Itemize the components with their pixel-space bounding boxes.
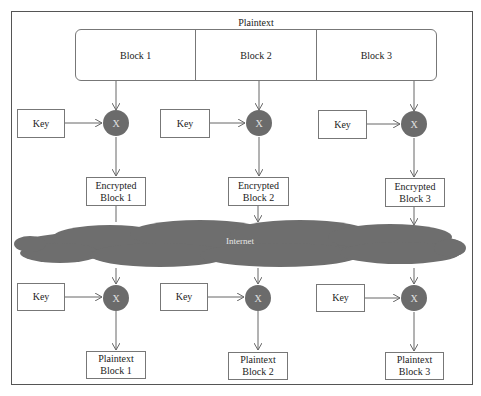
encrypted-block-1-line2: Block 1 (100, 192, 131, 204)
xor-node-decrypt-3: X (401, 285, 427, 311)
encrypted-block-2-line2: Block 2 (243, 192, 274, 204)
encrypted-block-1: Encrypted Block 1 (86, 177, 146, 206)
plaintext-output-3-line1: Plaintext (397, 354, 433, 366)
xor-node-encrypt-3: X (401, 111, 427, 137)
plaintext-block-2: Block 2 (195, 30, 315, 80)
key-box-decrypt-3: Key (316, 284, 365, 312)
plaintext-block-1: Block 1 (76, 30, 195, 80)
key-box-decrypt-2: Key (160, 283, 208, 311)
internet-label: Internet (200, 236, 280, 246)
plaintext-output-2-line2: Block 2 (242, 366, 273, 378)
plaintext-output-1: Plaintext Block 1 (86, 351, 146, 379)
key-box-encrypt-2: Key (160, 109, 210, 138)
encrypted-block-2: Encrypted Block 2 (228, 177, 289, 206)
encrypted-block-3: Encrypted Block 3 (385, 178, 445, 207)
xor-node-encrypt-1: X (103, 110, 129, 136)
encrypted-block-3-line1: Encrypted (394, 181, 435, 193)
plaintext-output-2-line1: Plaintext (240, 354, 276, 366)
encrypted-block-2-line1: Encrypted (238, 180, 279, 192)
plaintext-container: Block 1 Block 2 Block 3 (75, 29, 437, 81)
plaintext-block-3: Block 3 (316, 30, 436, 80)
xor-node-decrypt-2: X (245, 285, 271, 311)
encrypted-block-1-line1: Encrypted (95, 180, 136, 192)
plaintext-output-3: Plaintext Block 3 (385, 352, 444, 380)
encrypted-block-3-line2: Block 3 (399, 193, 430, 205)
key-box-encrypt-3: Key (318, 110, 367, 139)
key-box-encrypt-1: Key (17, 109, 65, 138)
plaintext-title: Plaintext (226, 17, 286, 29)
plaintext-output-1-line2: Block 1 (100, 365, 131, 377)
plaintext-output-1-line1: Plaintext (98, 353, 134, 365)
plaintext-output-2: Plaintext Block 2 (228, 352, 288, 380)
plaintext-output-3-line2: Block 3 (399, 366, 430, 378)
xor-node-encrypt-2: X (246, 110, 272, 136)
xor-node-decrypt-1: X (103, 285, 129, 311)
key-box-decrypt-1: Key (17, 283, 65, 311)
